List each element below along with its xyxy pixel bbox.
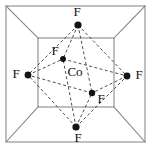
atom-label-f-right: F	[135, 67, 142, 82]
cube-edge-bottom-left-connector	[6, 107, 38, 142]
atom-label-f-left: F	[12, 66, 19, 81]
bond-f-bottom-to-f-left	[28, 75, 76, 127]
diagram-canvas: FFFFFFCo	[0, 0, 152, 149]
bond-f-top-to-f-lower-inner	[78, 25, 92, 93]
octahedral-coordination-figure: FFFFFFCo	[0, 0, 152, 149]
atom-label-f-upper-inner: F	[51, 43, 58, 58]
atom-label-f-lower-inner: F	[97, 91, 104, 106]
atom-dot-f-upper-inner	[60, 56, 66, 62]
atom-dot-f-lower-inner	[89, 90, 95, 96]
cube-edge-top-right-connector	[114, 6, 145, 38]
atom-dot-f-left	[25, 72, 32, 79]
center-atom-label-co: Co	[67, 64, 82, 79]
bond-f-left-to-f-upper-inner	[28, 59, 63, 75]
atom-dot-f-top	[74, 21, 81, 28]
cube-edge-top-left-connector	[6, 6, 38, 38]
cube-edge-bottom-right-connector	[114, 107, 145, 142]
atom-dot-f-right	[124, 73, 131, 80]
bond-f-top-to-f-upper-inner	[63, 25, 78, 59]
atom-label-f-top: F	[73, 4, 80, 19]
bond-f-bottom-to-f-lower-inner	[76, 93, 92, 127]
atom-label-f-bottom: F	[74, 130, 81, 145]
